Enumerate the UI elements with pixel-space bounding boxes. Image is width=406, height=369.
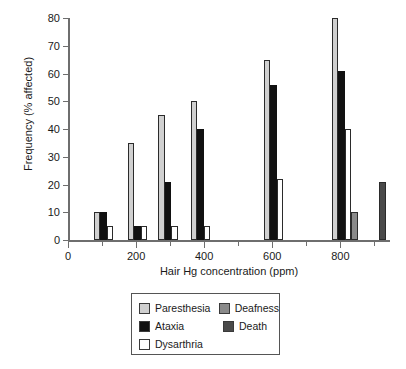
bar-deafness-775 xyxy=(351,212,358,240)
x-axis-line xyxy=(68,240,390,242)
bar-paresthesia-575 xyxy=(264,60,271,240)
legend-label-dysarthria: Dysarthria xyxy=(155,338,203,350)
legend-label-paresthesia: Paresthesia xyxy=(155,302,210,314)
bar-dysarthria-575 xyxy=(277,179,284,240)
y-tick-label: 10 xyxy=(34,207,60,218)
bar-ataxia-360 xyxy=(197,129,204,240)
legend-row: Dysarthria xyxy=(139,335,279,353)
legend-swatch-deafness-icon xyxy=(219,303,230,314)
y-tick xyxy=(63,46,68,47)
legend-label-death: Death xyxy=(239,320,267,332)
bar-dysarthria-75 xyxy=(107,226,114,240)
legend-item-ataxia: Ataxia xyxy=(139,320,223,332)
legend-swatch-death-icon xyxy=(223,321,234,332)
x-tick xyxy=(68,242,69,248)
bar-ataxia-175 xyxy=(134,226,141,240)
bar-ataxia-575 xyxy=(270,85,277,240)
chart-legend: Paresthesia Deafness Ataxia Death Dysart… xyxy=(131,293,280,355)
y-tick-label: 50 xyxy=(34,96,60,107)
x-tick-label: 800 xyxy=(331,250,349,262)
x-axis-label: Hair Hg concentration (ppm) xyxy=(68,265,390,277)
bar-dysarthria-360 xyxy=(204,226,211,240)
x-tick-minor xyxy=(102,242,103,246)
bar-paresthesia-75 xyxy=(94,212,101,240)
y-tick xyxy=(63,240,68,241)
legend-label-deafness: Deafness xyxy=(235,302,279,314)
x-tick-label: 600 xyxy=(263,250,281,262)
y-tick-label: 70 xyxy=(34,40,60,51)
legend-swatch-dysarthria-icon xyxy=(139,339,150,350)
y-tick-label: 0 xyxy=(34,235,60,246)
x-tick-label: 400 xyxy=(195,250,213,262)
legend-row: Ataxia Death xyxy=(139,317,279,335)
y-tick xyxy=(63,157,68,158)
bar-dysarthria-265 xyxy=(171,226,178,240)
legend-label-ataxia: Ataxia xyxy=(155,320,184,332)
y-tick-label: 30 xyxy=(34,151,60,162)
y-tick xyxy=(63,101,68,102)
bar-ataxia-775 xyxy=(338,71,345,240)
legend-swatch-ataxia-icon xyxy=(139,321,150,332)
x-tick xyxy=(340,242,341,248)
y-tick-label: 60 xyxy=(34,68,60,79)
plot-area xyxy=(68,18,388,240)
y-tick-label: 40 xyxy=(34,124,60,135)
bar-dysarthria-775 xyxy=(345,129,352,240)
x-tick-minor xyxy=(374,242,375,246)
legend-item-dysarthria: Dysarthria xyxy=(139,338,223,350)
legend-item-death: Death xyxy=(223,320,267,332)
legend-item-deafness: Deafness xyxy=(219,302,279,314)
y-tick xyxy=(63,212,68,213)
x-tick xyxy=(272,242,273,248)
x-tick-minor xyxy=(238,242,239,246)
x-tick xyxy=(136,242,137,248)
bar-chart-figure: 01020304050607080 0200400600800 Hair Hg … xyxy=(0,0,406,369)
bar-paresthesia-175 xyxy=(128,143,135,240)
bar-paresthesia-265 xyxy=(158,115,165,240)
y-tick xyxy=(63,74,68,75)
legend-item-paresthesia: Paresthesia xyxy=(139,302,219,314)
y-tick xyxy=(63,185,68,186)
bar-dysarthria-175 xyxy=(141,226,148,240)
bar-death-915 xyxy=(379,182,386,240)
bar-paresthesia-360 xyxy=(191,101,198,240)
y-tick xyxy=(63,18,68,19)
x-tick-minor xyxy=(306,242,307,246)
y-axis-label: Frequency (% affected) xyxy=(22,24,34,204)
legend-swatch-paresthesia-icon xyxy=(139,303,150,314)
bar-paresthesia-775 xyxy=(332,18,339,240)
bar-ataxia-265 xyxy=(165,182,172,240)
bar-ataxia-75 xyxy=(100,212,107,240)
y-tick-label: 20 xyxy=(34,179,60,190)
legend-row: Paresthesia Deafness xyxy=(139,299,279,317)
x-tick-label: 200 xyxy=(127,250,145,262)
x-tick-minor xyxy=(170,242,171,246)
x-tick-label: 0 xyxy=(65,250,71,262)
x-tick xyxy=(204,242,205,248)
y-tick-label: 80 xyxy=(34,13,60,24)
y-tick xyxy=(63,129,68,130)
